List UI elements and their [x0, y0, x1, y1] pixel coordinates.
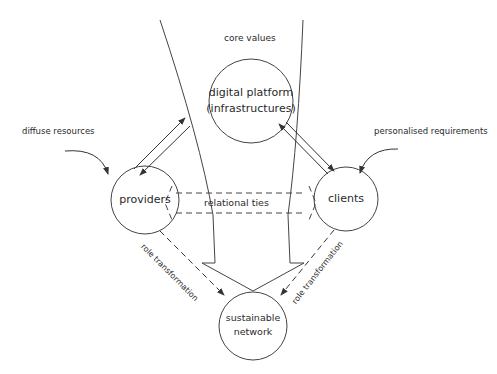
providers-label: providers — [111, 193, 179, 206]
relational-ties-label: relational ties — [204, 197, 269, 208]
digital-platform-label: digital platform (infrastructures) — [204, 85, 298, 117]
sustainable-network-line1: sustainable — [219, 311, 287, 325]
digital-platform-line2: (infrastructures) — [204, 101, 298, 117]
core-values-label: core values — [224, 33, 276, 43]
diffuse-resources-label: diffuse resources — [22, 126, 95, 136]
sustainable-network-label: sustainable network — [219, 311, 287, 339]
clients-platform-arrows — [279, 122, 334, 174]
clients-label: clients — [314, 192, 378, 205]
digital-platform-line1: digital platform — [204, 85, 298, 101]
core-values-funnel — [160, 20, 304, 291]
personalised-requirements-label: personalised requirements — [374, 126, 488, 136]
sustainable-network-line2: network — [219, 325, 287, 339]
diffuse-resources-arrow — [65, 151, 108, 174]
personalised-requirements-arrow — [360, 149, 398, 173]
